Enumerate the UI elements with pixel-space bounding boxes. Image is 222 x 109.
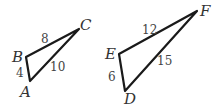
triangle-abc: C B A 8 4 10: [11, 16, 92, 101]
side-label-df: 15: [157, 54, 172, 68]
side-label-ab: 4: [16, 66, 24, 80]
vertex-label-e: E: [104, 45, 116, 63]
triangle-def-shape: [119, 11, 197, 91]
vertex-label-a: A: [18, 83, 31, 101]
vertex-label-b: B: [11, 48, 23, 66]
triangle-def: F E D 12 6 15: [104, 2, 211, 108]
side-label-ef: 12: [142, 23, 157, 37]
side-label-ac: 10: [50, 60, 65, 74]
vertex-label-d: D: [123, 90, 136, 108]
side-label-de: 6: [108, 70, 116, 84]
side-label-bc: 8: [41, 32, 49, 46]
vertex-label-f: F: [199, 2, 211, 20]
vertex-label-c: C: [80, 16, 92, 34]
similar-triangles-diagram: C B A 8 4 10 F E D 12 6 15: [0, 0, 222, 109]
